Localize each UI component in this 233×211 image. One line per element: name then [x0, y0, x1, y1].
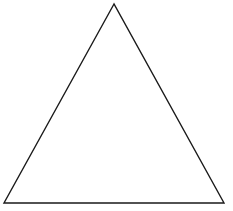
diagram-canvas — [0, 0, 233, 211]
triangle-shape — [4, 4, 224, 203]
